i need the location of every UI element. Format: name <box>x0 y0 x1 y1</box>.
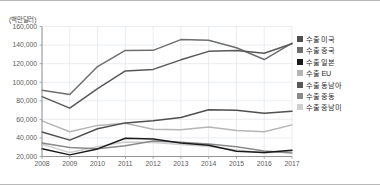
legend-swatch-sea <box>297 82 303 88</box>
x-axis-tick-label: 2011 <box>118 160 133 167</box>
legend-swatch-china <box>297 47 303 53</box>
x-axis-tick-label: 2017 <box>284 160 299 167</box>
legend-item[interactable]: 수출 동남아 <box>297 80 342 90</box>
legend-item[interactable]: 수출 미국 <box>297 34 342 44</box>
legend-item-label: 수출 중동 <box>306 91 335 101</box>
series-line <box>42 110 292 140</box>
legend-swatch-us <box>297 36 303 42</box>
y-axis-tick-label: 120,000 <box>12 60 37 67</box>
series-line <box>42 44 292 108</box>
y-axis-tick-label: 40,000 <box>16 134 37 141</box>
legend-swatch-eu <box>297 70 303 76</box>
gridlines <box>42 27 292 157</box>
y-axis-tick-label: 100,000 <box>12 79 37 86</box>
axis-lines <box>42 27 292 157</box>
legend-item[interactable]: 수출 중국 <box>297 45 342 55</box>
x-axis-tick-label: 2016 <box>257 160 272 167</box>
legend-item-label: 수출 동남아 <box>306 80 342 90</box>
x-axis-tick-label: 2010 <box>90 160 105 167</box>
legend-item[interactable]: 수출 일본 <box>297 57 342 67</box>
x-axis-tick-label: 2008 <box>34 160 49 167</box>
legend-item-label: 수출 EU <box>306 68 331 78</box>
y-axis-tick-label: 20,000 <box>16 153 37 160</box>
x-axis-tick-label: 2013 <box>173 160 188 167</box>
legend-swatch-latam <box>297 104 303 110</box>
series-line <box>42 40 292 95</box>
series-line <box>42 138 292 155</box>
y-axis-tick-label: 80,000 <box>16 97 37 104</box>
x-axis-tick-label: 2012 <box>146 160 161 167</box>
legend-item-label: 수출 미국 <box>306 34 335 44</box>
x-axis-ticks: 2008200920102011201220132014201520162017 <box>34 157 299 168</box>
data-series-lines <box>42 40 292 155</box>
chart-legend: 수출 미국수출 중국수출 일본수출 EU수출 동남아수출 중동수출 중남미 <box>297 34 342 112</box>
y-axis-tick-label: 140,000 <box>12 41 37 48</box>
y-axis-tick-label: 60,000 <box>16 116 37 123</box>
legend-swatch-mideast <box>297 93 303 99</box>
legend-item[interactable]: 수출 EU <box>297 68 342 78</box>
x-axis-tick-label: 2015 <box>229 160 244 167</box>
legend-item[interactable]: 수출 중동 <box>297 91 342 101</box>
y-axis-tick-label: 160,000 <box>12 23 37 30</box>
legend-item-label: 수출 중국 <box>306 45 335 55</box>
legend-item[interactable]: 수출 중남미 <box>297 102 342 112</box>
x-axis-tick-label: 2014 <box>201 160 216 167</box>
legend-item-label: 수출 중남미 <box>306 102 342 112</box>
y-axis-ticks: 160,000140,000120,000100,00080,00060,000… <box>12 23 42 160</box>
x-axis-tick-label: 2009 <box>62 160 77 167</box>
legend-swatch-japan <box>297 59 303 65</box>
series-line <box>42 121 292 132</box>
legend-item-label: 수출 일본 <box>306 57 335 67</box>
chart-figure: (백만달러) 160,000140,000120,000100,00080,00… <box>0 0 380 185</box>
